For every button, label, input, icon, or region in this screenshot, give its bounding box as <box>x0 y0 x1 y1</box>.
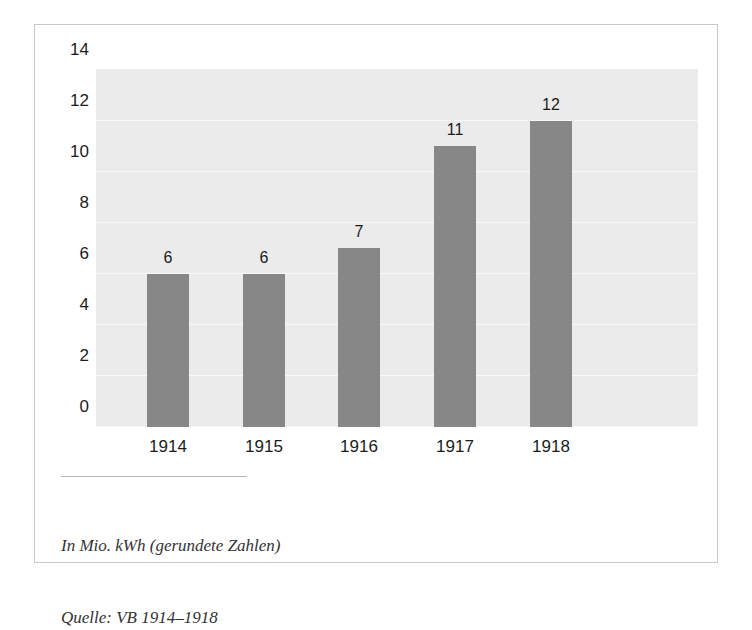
x-tick-label-1917: 1917 <box>410 437 500 456</box>
y-tick-label: 6 <box>49 245 89 262</box>
bar-1918 <box>530 121 572 427</box>
gridline <box>96 222 698 223</box>
bar-1914 <box>147 274 189 427</box>
y-axis: 14 12 10 8 6 4 2 0 <box>41 25 89 562</box>
y-tick-label: 2 <box>49 347 89 364</box>
x-tick-label-1918: 1918 <box>506 437 596 456</box>
x-tick-label-1914: 1914 <box>123 437 213 456</box>
bar-value-label-1918: 12 <box>521 96 581 114</box>
bar-value-label-1915: 6 <box>234 249 294 267</box>
bar-1917 <box>434 146 476 427</box>
x-tick-label-1915: 1915 <box>219 437 309 456</box>
bar-1915 <box>243 274 285 427</box>
footnote-source-note: Quelle: VB 1914–1918 <box>61 606 281 630</box>
x-axis: 1914 1915 1916 1917 1918 <box>96 437 698 463</box>
y-tick-label: 10 <box>49 143 89 160</box>
x-tick-label-1916: 1916 <box>314 437 404 456</box>
plot-area: 6 6 7 11 12 <box>96 69 698 427</box>
bar-value-label-1917: 11 <box>425 121 485 139</box>
bar-value-label-1914: 6 <box>138 249 198 267</box>
gridline <box>96 120 698 121</box>
chart-figure: 14 12 10 8 6 4 2 0 6 6 7 11 12 1914 1915… <box>34 24 718 563</box>
y-tick-label: 0 <box>49 398 89 415</box>
footnote: In Mio. kWh (gerundete Zahlen) Quelle: V… <box>61 486 281 630</box>
y-tick-label: 14 <box>49 41 89 58</box>
footnote-divider <box>61 476 247 477</box>
y-tick-label: 12 <box>49 92 89 109</box>
y-tick-label: 8 <box>49 194 89 211</box>
bar-1916 <box>338 248 380 427</box>
gridline <box>96 171 698 172</box>
footnote-unit-note: In Mio. kWh (gerundete Zahlen) <box>61 534 281 558</box>
bar-value-label-1916: 7 <box>329 223 389 241</box>
y-tick-label: 4 <box>49 296 89 313</box>
